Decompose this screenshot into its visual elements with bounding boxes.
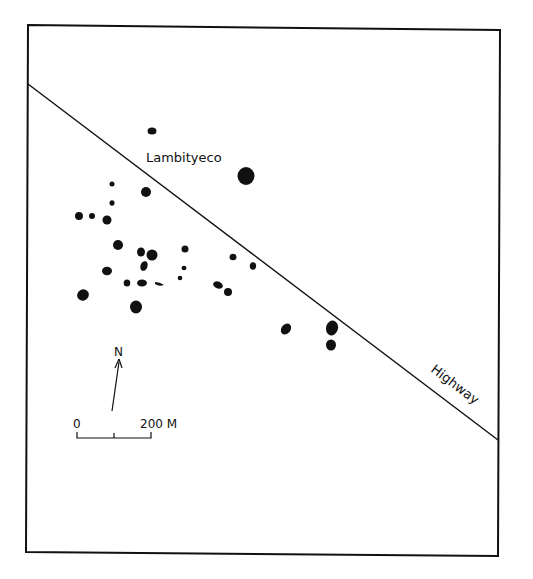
- mound: [103, 216, 112, 225]
- north-arrow-shaft: [112, 362, 119, 411]
- mound: [279, 322, 294, 337]
- mound: [137, 280, 147, 287]
- mound: [130, 301, 142, 314]
- mound: [110, 200, 115, 206]
- mound: [110, 182, 115, 187]
- mound: [139, 260, 149, 272]
- north-arrow: N: [112, 345, 123, 411]
- mound: [182, 246, 189, 253]
- scale-end-label: 200 M: [140, 417, 177, 431]
- mound: [178, 276, 183, 281]
- mound: [124, 280, 131, 287]
- mound: [224, 288, 232, 296]
- highway-line: [28, 84, 498, 440]
- highway-label: Highway: [428, 361, 482, 407]
- mound: [212, 280, 224, 290]
- mound: [238, 167, 255, 185]
- mound: [326, 340, 336, 351]
- map-frame: [26, 25, 500, 556]
- mound: [147, 250, 158, 261]
- mound: [182, 266, 187, 271]
- mound: [75, 287, 91, 303]
- mound: [89, 213, 95, 219]
- mound: [250, 262, 256, 270]
- site-label: Lambityeco: [146, 150, 222, 165]
- north-label: N: [114, 345, 123, 359]
- mound: [102, 267, 112, 275]
- scale-bar-line: [77, 432, 151, 438]
- mound: [155, 282, 164, 286]
- mound: [324, 319, 339, 337]
- site-map: Highway Lambityeco N: [0, 0, 533, 579]
- scale-bar: 0 200 M: [73, 417, 177, 438]
- mound: [75, 212, 83, 220]
- mound: [113, 240, 123, 250]
- mound: [148, 128, 157, 135]
- mound: [230, 254, 237, 260]
- scale-start-label: 0: [73, 417, 81, 431]
- mound: [141, 187, 151, 197]
- mound: [137, 248, 145, 257]
